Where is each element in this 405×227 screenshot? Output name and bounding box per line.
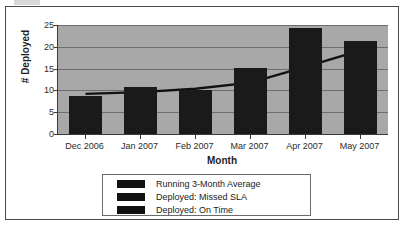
x-tick-mark	[250, 135, 251, 139]
x-tick-mark	[305, 135, 306, 139]
x-tick-label: Apr 2007	[277, 141, 332, 151]
x-tick-label: Dec 2006	[57, 141, 112, 151]
y-tick-label: 10	[38, 86, 54, 95]
x-tick-label: Feb 2007	[167, 141, 222, 151]
x-tick-mark	[195, 135, 196, 139]
running-average-line	[58, 25, 388, 134]
legend-swatch	[117, 180, 145, 188]
x-axis-title: Month	[57, 155, 387, 166]
y-tick-label: 0	[38, 130, 54, 139]
y-axis: 0510152025	[34, 25, 54, 134]
chart-frame: # Deployed 0510152025 Dec 2006Jan 2007Fe…	[5, 6, 399, 220]
legend-item: Running 3-Month Average	[117, 178, 310, 190]
legend-label: Deployed: On Time	[156, 205, 233, 215]
legend-label: Deployed: Missed SLA	[156, 192, 247, 202]
bar	[124, 87, 157, 134]
x-tick-mark	[140, 135, 141, 139]
legend-item: Deployed: On Time	[117, 204, 310, 216]
legend-swatch	[117, 193, 145, 201]
legend-swatch	[117, 206, 145, 214]
bar	[179, 90, 212, 134]
y-tick-label: 5	[38, 108, 54, 117]
x-tick-label: May 2007	[332, 141, 387, 151]
bar	[289, 28, 322, 134]
y-tick-label: 25	[38, 21, 54, 30]
x-tick-mark	[85, 135, 86, 139]
plot-area	[57, 25, 388, 135]
bar	[69, 96, 102, 134]
chart-screenshot: # Deployed 0510152025 Dec 2006Jan 2007Fe…	[0, 0, 405, 227]
x-tick-mark	[360, 135, 361, 139]
y-tick-label: 15	[38, 65, 54, 74]
x-tick-label: Jan 2007	[112, 141, 167, 151]
bar	[234, 68, 267, 134]
legend-label: Running 3-Month Average	[156, 179, 260, 189]
y-tick-label: 20	[38, 43, 54, 52]
y-axis-title: # Deployed	[20, 12, 31, 102]
bar	[344, 41, 377, 134]
scan-artifact	[14, 0, 40, 5]
chart-legend: Running 3-Month AverageDeployed: Missed …	[102, 174, 311, 216]
legend-item: Deployed: Missed SLA	[117, 191, 310, 203]
x-tick-label: Mar 2007	[222, 141, 277, 151]
